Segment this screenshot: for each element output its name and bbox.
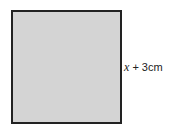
side-length-expression: + 3cm (129, 61, 162, 73)
side-length-label: x + 3cm (124, 60, 163, 75)
square-shape (11, 10, 122, 124)
